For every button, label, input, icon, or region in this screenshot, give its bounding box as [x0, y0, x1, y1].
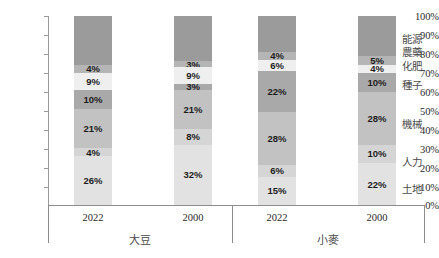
bar-segment-人力[interactable]: 10% [358, 145, 396, 164]
segment-value-label: 22% [267, 87, 286, 96]
bar-segment-種子[interactable]: 22% [258, 71, 296, 113]
segment-value-label: 9% [186, 71, 200, 80]
y-tick-label-0: 0% [395, 201, 439, 211]
legend-item-land: 土地 [402, 184, 422, 195]
y-tick-label-100: 100% [395, 12, 439, 22]
y-tick-mark-50 [44, 111, 48, 112]
y-tick-mark-80 [44, 54, 48, 55]
bar-soybean-2000[interactable]: 3%9%3%21%8%32% [174, 16, 212, 205]
y-tick-mark-10 [44, 187, 48, 188]
bar-segment-能源[interactable] [358, 16, 396, 56]
bar-segment-土地[interactable]: 26% [74, 156, 112, 205]
segment-value-label: 10% [83, 95, 102, 104]
segment-value-label: 21% [183, 105, 202, 114]
bar-wheat-2000[interactable]: 5%4%10%28%10%22% [358, 16, 396, 205]
x-tick-label-soybean-2000: 2000 [163, 212, 223, 223]
bar-segment-農藥[interactable]: 4% [74, 65, 112, 73]
y-tick-mark-90 [44, 35, 48, 36]
group-separator-left [48, 205, 49, 243]
segment-value-label: 10% [367, 149, 386, 158]
y-axis-line [48, 16, 49, 206]
segment-value-label: 8% [186, 132, 200, 141]
segment-value-label: 22% [367, 180, 386, 189]
bar-segment-土地[interactable]: 15% [258, 177, 296, 205]
y-tick-label-50: 50% [395, 107, 439, 117]
segment-value-label: 26% [83, 176, 102, 185]
bar-segment-機械[interactable]: 21% [174, 90, 212, 130]
legend-item-fertilizer: 化肥 [402, 61, 422, 72]
y-tick-mark-30 [44, 149, 48, 150]
bar-segment-人力[interactable]: 4% [74, 148, 112, 156]
bar-segment-化肥[interactable]: 9% [74, 73, 112, 90]
bar-segment-機械[interactable]: 21% [74, 109, 112, 149]
x-tick-label-wheat-2022: 2022 [247, 212, 307, 223]
group-label-wheat: 小麥 [268, 231, 388, 247]
bar-wheat-2022[interactable]: 4%6%22%28%6%15% [258, 16, 296, 205]
segment-value-label: 9% [86, 77, 100, 86]
bar-segment-機械[interactable]: 28% [258, 112, 296, 165]
legend-item-pesticide: 農藥 [402, 47, 422, 58]
segment-value-label: 10% [367, 78, 386, 87]
group-separator-right [424, 205, 425, 243]
segment-value-label: 28% [267, 134, 286, 143]
legend-item-machinery: 機械 [402, 119, 422, 130]
x-tick-label-wheat-2000: 2000 [347, 212, 407, 223]
x-tick-label-soybean-2022: 2022 [63, 212, 123, 223]
bar-segment-種子[interactable]: 10% [74, 90, 112, 109]
y-tick-label-30: 30% [395, 145, 439, 155]
bar-segment-人力[interactable]: 6% [258, 165, 296, 176]
x-axis-baseline [48, 205, 425, 206]
stacked-bar-chart: 100% 90% 80% 70% 60% 50% 40% 30% 20% 10%… [0, 0, 439, 258]
y-tick-mark-100 [44, 16, 48, 17]
segment-value-label: 6% [270, 166, 284, 175]
bar-segment-能源[interactable] [74, 16, 112, 65]
legend-item-seeds: 種子 [402, 80, 422, 91]
legend-item-energy: 能源 [402, 34, 422, 45]
bar-soybean-2022[interactable]: 4%9%10%21%4%26% [74, 16, 112, 205]
segment-value-label: 32% [183, 170, 202, 179]
group-label-soybean: 大豆 [80, 231, 200, 247]
bar-segment-人力[interactable]: 8% [174, 129, 212, 144]
group-separator-middle [232, 205, 233, 243]
bar-segment-化肥[interactable]: 6% [258, 60, 296, 71]
y-tick-mark-70 [44, 73, 48, 74]
bar-segment-種子[interactable]: 10% [358, 73, 396, 92]
y-tick-mark-60 [44, 92, 48, 93]
segment-value-label: 6% [270, 61, 284, 70]
bar-segment-化肥[interactable]: 4% [358, 65, 396, 73]
y-tick-mark-40 [44, 130, 48, 131]
segment-value-label: 15% [267, 186, 286, 195]
bar-segment-土地[interactable]: 22% [358, 163, 396, 205]
y-tick-mark-20 [44, 168, 48, 169]
bar-segment-能源[interactable] [258, 16, 296, 52]
bar-segment-能源[interactable] [174, 16, 212, 61]
legend-item-labor: 人力 [402, 157, 422, 168]
bar-segment-機械[interactable]: 28% [358, 92, 396, 145]
segment-value-label: 21% [83, 124, 102, 133]
bar-segment-土地[interactable]: 32% [174, 145, 212, 205]
bar-segment-農藥[interactable]: 4% [258, 52, 296, 60]
segment-value-label: 28% [367, 114, 386, 123]
